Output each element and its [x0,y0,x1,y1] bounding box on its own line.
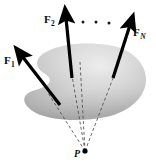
vector-label-f1-main: F [4,54,11,66]
ellipsis-dot-1 [82,21,85,24]
diagram-canvas [0,0,156,164]
vector-label-f2: F2 [44,14,54,25]
vector-label-fn-sub: N [140,32,145,41]
vector-label-fn-main: F [133,26,140,38]
vector-label-f1-sub: 1 [11,60,15,69]
ellipsis-dots [82,21,111,25]
vector-label-f2-main: F [44,13,51,25]
vector-label-f2-sub: 2 [51,19,55,28]
vector-label-fn: FN [133,27,145,38]
ellipsis-dot-3 [108,22,111,25]
physics-force-diagram: F1 F2 FN P [0,0,156,164]
point-p-dot [82,148,87,153]
vector-label-f1: F1 [4,55,14,66]
ellipsis-dot-2 [95,21,98,24]
point-p-label: P [74,149,80,159]
